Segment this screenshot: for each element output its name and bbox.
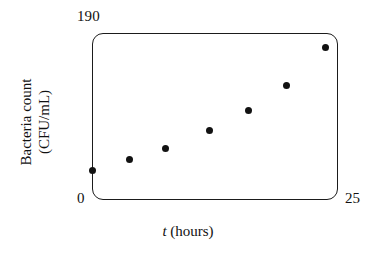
y-axis-title: Bacteria count (CFU/mL)	[0, 48, 109, 196]
x-axis-title-unit: (hours)	[170, 223, 213, 239]
x-axis-max-label: 25	[345, 191, 360, 206]
y-axis-title-line-2: (CFU/mL)	[35, 78, 53, 165]
y-axis-title-line-1: Bacteria count	[17, 78, 35, 165]
bacteria-count-scatter-figure: 190 0 25 Bacteria count (CFU/mL) t (hour…	[0, 0, 376, 255]
x-axis-title: t (hours)	[0, 224, 376, 239]
y-axis-max-label: 190	[77, 9, 100, 24]
plot-frame	[92, 33, 338, 200]
